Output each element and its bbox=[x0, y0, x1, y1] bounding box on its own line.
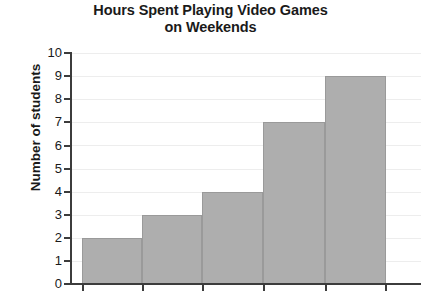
y-tick-mark-6 bbox=[64, 145, 71, 147]
bar-4 bbox=[263, 122, 325, 284]
y-tick-label-1: 1 bbox=[34, 254, 62, 267]
y-tick-mark-4 bbox=[64, 191, 71, 193]
bar-1 bbox=[82, 238, 142, 284]
y-tick-labels: 10 9 8 7 6 5 4 3 2 1 0 bbox=[30, 0, 62, 291]
y-tick-mark-2 bbox=[64, 237, 71, 239]
y-tick-label-10: 10 bbox=[34, 46, 62, 59]
x-tick-mark-5 bbox=[385, 285, 387, 291]
gridline bbox=[71, 53, 421, 54]
y-tick-mark-0 bbox=[64, 283, 71, 285]
y-tick-label-3: 3 bbox=[34, 208, 62, 221]
bar-3 bbox=[202, 192, 263, 284]
y-tick-label-4: 4 bbox=[34, 185, 62, 198]
chart-title-line-1: Hours Spent Playing Video Games bbox=[0, 2, 421, 19]
y-tick-label-6: 6 bbox=[34, 139, 62, 152]
bar-5 bbox=[325, 76, 386, 284]
y-tick-mark-9 bbox=[64, 75, 71, 77]
y-tick-label-9: 9 bbox=[34, 69, 62, 82]
y-tick-mark-5 bbox=[64, 168, 71, 170]
y-tick-label-0: 0 bbox=[34, 277, 62, 290]
x-tick-mark-1 bbox=[142, 285, 144, 291]
y-tick-mark-1 bbox=[64, 260, 71, 262]
y-tick-mark-10 bbox=[64, 52, 71, 54]
y-tick-label-7: 7 bbox=[34, 115, 62, 128]
chart-title-line-2: on Weekends bbox=[0, 19, 421, 36]
x-tick-mark-4 bbox=[325, 285, 327, 291]
chart-screenshot: Hours Spent Playing Video Games on Weeke… bbox=[0, 0, 421, 291]
y-tick-mark-7 bbox=[64, 121, 71, 123]
x-tick-mark-3 bbox=[263, 285, 265, 291]
y-tick-label-8: 8 bbox=[34, 92, 62, 105]
chart-title: Hours Spent Playing Video Games on Weeke… bbox=[0, 2, 421, 36]
x-tick-mark-2 bbox=[202, 285, 204, 291]
x-axis-line bbox=[70, 283, 421, 285]
y-tick-mark-3 bbox=[64, 214, 71, 216]
plot-area bbox=[71, 53, 421, 284]
y-tick-mark-8 bbox=[64, 98, 71, 100]
x-tick-mark-0 bbox=[82, 285, 84, 291]
y-tick-label-2: 2 bbox=[34, 231, 62, 244]
bar-2 bbox=[142, 215, 202, 284]
y-tick-label-5: 5 bbox=[34, 162, 62, 175]
